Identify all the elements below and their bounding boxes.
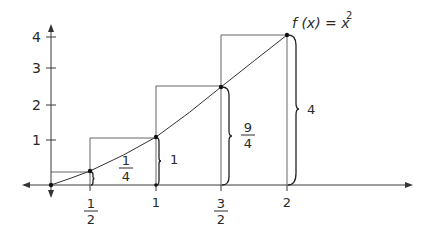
label-one: 1 xyxy=(170,152,178,167)
x-axis-right-arrow-icon xyxy=(405,182,413,188)
rectangle-3 xyxy=(156,86,221,185)
brace-quarter xyxy=(91,172,95,185)
upper-rectangles xyxy=(51,35,287,185)
y-tick-label-2: 2 xyxy=(32,97,41,113)
brace-nine-quarters xyxy=(222,87,232,185)
svg-text:2: 2 xyxy=(346,10,352,21)
svg-text:2: 2 xyxy=(87,212,95,227)
upper-sum-diagram: 4 3 2 1 1 2 1 3 2 2 1 4 1 9 4 xyxy=(0,0,431,230)
svg-text:1: 1 xyxy=(122,153,130,168)
y-axis-down-arrow-icon xyxy=(48,190,54,198)
y-tick-label-1: 1 xyxy=(32,132,41,148)
brace-one xyxy=(157,138,161,185)
svg-text:4: 4 xyxy=(244,136,252,151)
label-one-quarter: 1 4 xyxy=(119,153,133,184)
point-origin xyxy=(49,183,53,187)
brace-four xyxy=(288,35,299,185)
svg-text:3: 3 xyxy=(217,196,225,211)
label-four: 4 xyxy=(307,102,315,117)
y-axis-up-arrow-icon xyxy=(48,24,54,32)
svg-text:4: 4 xyxy=(122,169,130,184)
x-tick-label-1: 1 xyxy=(152,195,160,210)
x-tick-label-half: 1 2 xyxy=(84,196,98,227)
function-label: f (x) = x 2 xyxy=(292,10,352,31)
y-tick-label-4: 4 xyxy=(32,29,41,45)
rectangle-4 xyxy=(221,35,287,185)
svg-text:f (x) = x: f (x) = x xyxy=(292,15,350,31)
y-tick-label-3: 3 xyxy=(32,60,41,76)
svg-text:2: 2 xyxy=(217,212,225,227)
x-axis-left-arrow-icon xyxy=(22,182,30,188)
x-tick-label-2: 2 xyxy=(283,195,291,210)
svg-text:1: 1 xyxy=(87,196,95,211)
function-curve xyxy=(51,35,287,185)
svg-text:9: 9 xyxy=(244,120,252,135)
x-tick-label-three-halves: 3 2 xyxy=(214,196,228,227)
label-nine-quarters: 9 4 xyxy=(241,120,255,151)
